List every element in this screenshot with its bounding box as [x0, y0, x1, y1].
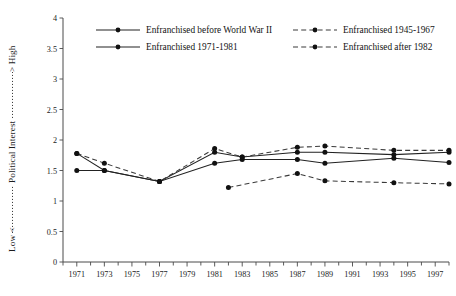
legend-item-1[interactable]: Enfranchised before World War II [96, 25, 272, 35]
series-4 [226, 171, 452, 190]
y-tick-label: 1 [53, 197, 57, 206]
x-tick-label: 1983 [234, 270, 250, 279]
chart-svg: 00.511.522.533.5419711973197519771979198… [0, 0, 456, 296]
data-point-marker [102, 161, 107, 166]
y-tick-label: 4 [53, 14, 57, 23]
y-tick-label: 1.5 [47, 167, 57, 176]
data-point-marker [322, 161, 327, 166]
legend-label: Enfranchised 1945-1967 [343, 25, 435, 35]
x-tick-label: 1979 [179, 270, 195, 279]
legend-marker [116, 28, 121, 33]
series-2 [74, 144, 451, 184]
data-point-marker [295, 145, 300, 150]
data-point-marker [74, 151, 79, 156]
legend-label: Enfranchised 1971-1981 [146, 42, 238, 52]
x-tick-label: 1989 [317, 270, 333, 279]
data-point-marker [295, 171, 300, 176]
y-tick-label: 2.5 [47, 106, 57, 115]
data-point-marker [322, 178, 327, 183]
x-tick-label: 1981 [206, 270, 222, 279]
x-tick-label: 1971 [69, 270, 85, 279]
legend-label: Enfranchised before World War II [146, 25, 272, 35]
legend-label: Enfranchised after 1982 [343, 42, 433, 52]
data-point-marker [447, 181, 452, 186]
data-point-marker [447, 160, 452, 165]
data-point-marker [322, 150, 327, 155]
y-axis-label-text: Political Interest [7, 120, 17, 183]
series-line [228, 174, 449, 188]
y-axis-label-low: Low < [7, 227, 17, 252]
x-tick-label: 1973 [96, 270, 112, 279]
series-1 [74, 150, 451, 184]
legend: Enfranchised before World War IIEnfranch… [96, 25, 435, 52]
data-point-marker [391, 148, 396, 153]
x-tick-label: 1987 [289, 270, 305, 279]
data-point-marker [212, 161, 217, 166]
data-series-group [74, 144, 451, 190]
x-tick-label: 1975 [124, 270, 140, 279]
data-point-marker [391, 180, 396, 185]
data-point-marker [212, 146, 217, 151]
y-tick-label: 2 [53, 136, 57, 145]
x-tick-label: 1977 [151, 270, 167, 279]
legend-item-3[interactable]: Enfranchised 1971-1981 [96, 42, 238, 52]
data-point-marker [322, 144, 327, 149]
y-tick-label: 0 [53, 258, 57, 267]
x-tick-label: 1997 [427, 270, 443, 279]
legend-item-2[interactable]: Enfranchised 1945-1967 [293, 25, 435, 35]
y-axis-label-high: > High [7, 45, 17, 72]
data-point-marker [157, 179, 162, 184]
data-point-marker [102, 168, 107, 173]
x-tick-label: 1995 [399, 270, 415, 279]
data-point-marker [295, 150, 300, 155]
y-tick-label: 0.5 [47, 228, 57, 237]
y-axis-label-group: Low <Political Interest> High [7, 45, 17, 252]
data-point-marker [447, 148, 452, 153]
legend-item-4[interactable]: Enfranchised after 1982 [293, 42, 433, 52]
legend-marker [313, 28, 318, 33]
legend-marker [116, 45, 121, 50]
x-tick-label: 1993 [372, 270, 388, 279]
data-point-marker [295, 157, 300, 162]
y-tick-label: 3.5 [47, 45, 57, 54]
x-tick-label: 1991 [344, 270, 360, 279]
y-tick-label: 3 [53, 75, 57, 84]
political-interest-line-chart: 00.511.522.533.5419711973197519771979198… [0, 0, 456, 296]
legend-marker [313, 45, 318, 50]
x-tick-label: 1985 [262, 270, 278, 279]
data-point-marker [391, 156, 396, 161]
data-point-marker [74, 168, 79, 173]
data-point-marker [226, 185, 231, 190]
data-point-marker [240, 157, 245, 162]
